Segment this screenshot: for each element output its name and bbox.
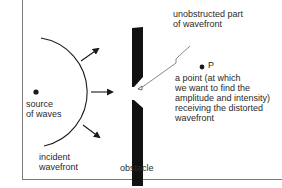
incident-wavefront-arc <box>41 38 87 146</box>
arrow-down-right-icon <box>83 125 99 137</box>
obstacle-lower-part <box>132 100 143 186</box>
label-point-desc-line3: amplitude and intensity) <box>175 93 270 103</box>
label-source: source of waves <box>26 99 62 119</box>
triangle-pointer-icon <box>138 86 142 90</box>
label-unobstructed-line2: of wavefront <box>173 19 243 29</box>
point-p-dot <box>200 65 205 70</box>
label-unobstructed: unobstructed part of wavefront <box>173 9 243 29</box>
label-incident-line2: wavefront <box>39 162 78 172</box>
diffraction-diagram: unobstructed part of wavefront P a point… <box>0 0 282 188</box>
label-point-p: P <box>208 60 214 70</box>
source-point <box>33 89 38 94</box>
obstacle-upper-part <box>132 27 143 87</box>
label-point-desc-line5: wavefront <box>175 113 270 123</box>
label-incident-wavefront: incident wavefront <box>39 152 78 172</box>
label-source-line2: of waves <box>26 109 62 119</box>
label-source-line1: source <box>26 99 62 109</box>
label-incident-line1: incident <box>39 152 78 162</box>
propagation-arrows <box>81 49 112 137</box>
label-unobstructed-line1: unobstructed part <box>173 9 243 19</box>
label-point-description: a point (at which we want to find the am… <box>175 73 270 123</box>
label-point-desc-line2: we want to find the <box>175 83 270 93</box>
label-point-desc-line4: receiving the distorted <box>175 103 270 113</box>
arrow-up-right-icon <box>81 49 98 61</box>
label-point-desc-line1: a point (at which <box>175 73 270 83</box>
label-obstacle: obstacle <box>120 163 154 173</box>
